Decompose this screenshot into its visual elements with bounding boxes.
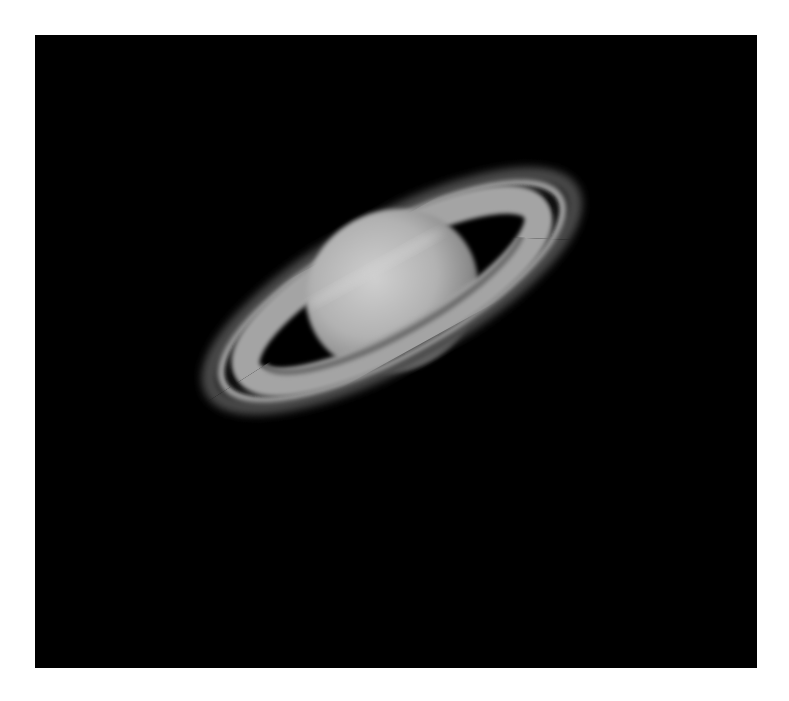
photo-frame: Saturn xyxy=(35,35,757,668)
saturn-image xyxy=(35,35,757,668)
saturn-system xyxy=(45,35,739,630)
